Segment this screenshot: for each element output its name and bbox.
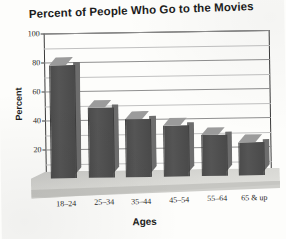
y-axis-title: Percent xyxy=(13,74,24,134)
bar-front-face xyxy=(239,142,266,176)
bar-front-face xyxy=(125,119,152,177)
x-axis-ticks: 18–2425–3435–4445–5455–6465 & up xyxy=(31,194,280,212)
y-tick-label: 20 xyxy=(33,145,41,154)
bar-front-face xyxy=(163,126,190,177)
bar xyxy=(201,127,226,176)
x-tick-label: 35–44 xyxy=(131,196,151,205)
bar-front-face xyxy=(201,135,228,176)
x-tick-label: 65 & up xyxy=(241,192,267,202)
bar xyxy=(49,57,75,178)
bar-front-face xyxy=(49,65,77,178)
y-tick-label: 80 xyxy=(32,58,40,67)
x-tick-label: 18–24 xyxy=(56,199,76,208)
chart-title: Percent of People Who Go to the Movies xyxy=(0,0,284,21)
x-tick-label: 25–34 xyxy=(94,198,114,207)
bar-front-face xyxy=(87,108,114,178)
chart-figure: Percent of People Who Go to the Movies P… xyxy=(0,0,286,239)
bar xyxy=(163,118,188,177)
bar-series xyxy=(44,30,272,179)
y-tick-label: 100 xyxy=(28,29,40,38)
bar xyxy=(87,100,112,178)
bar xyxy=(238,134,263,176)
x-axis-title: Ages xyxy=(2,214,286,229)
y-tick-label: 40 xyxy=(33,116,41,125)
bar xyxy=(125,111,150,177)
y-tick-label: 60 xyxy=(32,87,40,96)
x-tick-label: 45–54 xyxy=(169,195,189,204)
x-tick-label: 55–64 xyxy=(207,194,227,203)
